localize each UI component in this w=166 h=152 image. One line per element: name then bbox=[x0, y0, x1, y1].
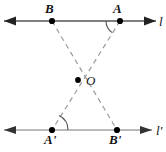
diagram-canvas bbox=[0, 0, 166, 152]
angle-arc-at-a bbox=[106, 21, 112, 33]
label-line-l-prime: l' bbox=[156, 124, 162, 137]
line-l-arrowhead-left bbox=[4, 17, 16, 26]
point-b bbox=[49, 18, 55, 24]
point-a bbox=[117, 18, 123, 24]
line-l bbox=[4, 17, 156, 26]
label-point-b: B bbox=[45, 2, 54, 15]
point-o bbox=[75, 77, 81, 83]
label-point-a: A bbox=[113, 2, 122, 15]
line-l-prime-arrowhead-right bbox=[140, 126, 152, 134]
line-l-prime-arrowhead-left bbox=[4, 126, 16, 134]
label-point-o: O bbox=[86, 74, 95, 87]
label-point-bprime: B' bbox=[109, 133, 121, 146]
line-l-arrowhead-right bbox=[144, 17, 156, 26]
geometry-diagram: B A O A' B' l l' bbox=[0, 0, 166, 152]
angle-arc-at-aprime bbox=[59, 116, 68, 130]
line-l-prime bbox=[4, 126, 152, 134]
label-line-l: l bbox=[159, 15, 163, 28]
label-point-aprime: A' bbox=[44, 133, 56, 146]
